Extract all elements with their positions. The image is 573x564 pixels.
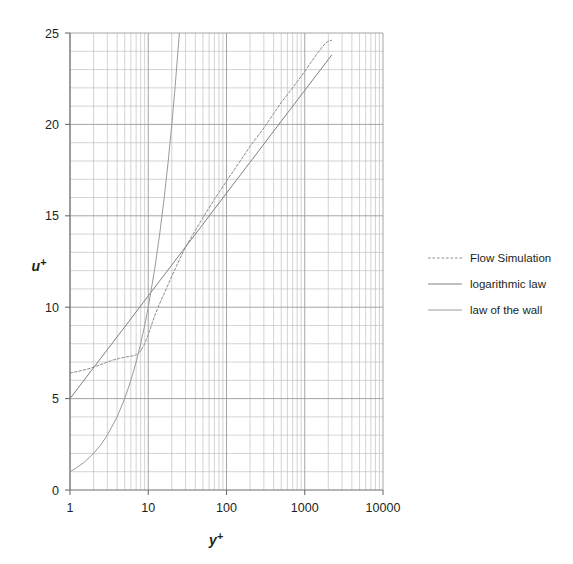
y-tick-label: 0 [52,484,59,498]
x-tick-label: 1 [67,501,74,515]
y-tick-label: 20 [45,118,59,132]
y-tick-label: 25 [45,27,59,41]
x-tick-label: 10 [141,501,155,515]
chart-figure: 110100100010000 0510152025 u+ y+ Flow Si… [0,0,573,564]
x-tick-label: 10000 [366,501,401,515]
y-tick-label: 5 [52,392,59,406]
velocity-profile-chart: 110100100010000 0510152025 u+ y+ Flow Si… [0,0,573,564]
legend-label-flow-simulation: Flow Simulation [470,252,551,264]
legend-label-logarithmic-law: logarithmic law [470,278,547,290]
x-tick-label: 100 [216,501,237,515]
x-tick-label: 1000 [291,501,319,515]
y-tick-label: 15 [45,209,59,223]
y-tick-label: 10 [45,301,59,315]
legend-label-law-of-the-wall: law of the wall [470,304,542,316]
